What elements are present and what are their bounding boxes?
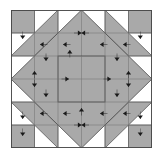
corner-square-top-right [129, 10, 153, 33]
quilt-block-svg [11, 10, 152, 148]
corner-square-bottom-left [11, 125, 35, 148]
quilt-block-canvas [11, 10, 152, 148]
corner-square-top-left [11, 10, 35, 33]
quilt-block-diagram [0, 0, 163, 156]
corner-square-bottom-right [129, 125, 153, 148]
